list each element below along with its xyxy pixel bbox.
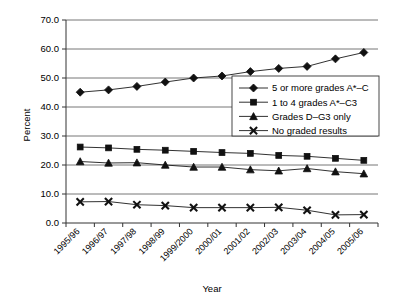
y-axis-title: Percent bbox=[21, 108, 32, 141]
legend-item-label: No graded results bbox=[272, 125, 347, 136]
y-tick-label: 50.0 bbox=[41, 72, 60, 83]
y-tick-label: 40.0 bbox=[41, 101, 60, 112]
marker-square bbox=[333, 155, 339, 161]
y-tick-label: 60.0 bbox=[41, 43, 60, 54]
marker-square bbox=[219, 150, 225, 156]
marker-square bbox=[134, 146, 140, 152]
y-tick-label: 70.0 bbox=[41, 14, 60, 25]
legend-item-label: Grades D–G3 only bbox=[272, 111, 351, 122]
legend-item-label: 1 to 4 grades A*–C3 bbox=[272, 97, 357, 108]
y-tick-label: 30.0 bbox=[41, 130, 60, 141]
marker-square bbox=[191, 148, 197, 154]
x-axis-title: Year bbox=[202, 283, 221, 294]
legend-item-label: 5 or more grades A*–C bbox=[272, 82, 369, 93]
marker-square bbox=[276, 153, 282, 159]
marker-square bbox=[162, 147, 168, 153]
y-tick-label: 0.0 bbox=[46, 217, 59, 228]
chart-container: 0.010.020.030.040.050.060.070.0 1995/961… bbox=[0, 0, 399, 305]
y-tick-label: 10.0 bbox=[41, 188, 60, 199]
line-chart: 0.010.020.030.040.050.060.070.0 1995/961… bbox=[0, 0, 399, 305]
marker-square bbox=[361, 157, 367, 163]
legend: 5 or more grades A*–C1 to 4 grades A*–C3… bbox=[232, 76, 379, 136]
chart-background bbox=[0, 0, 399, 305]
y-tick-label: 20.0 bbox=[41, 159, 60, 170]
marker-square bbox=[251, 99, 257, 105]
marker-square bbox=[77, 144, 83, 150]
marker-square bbox=[106, 145, 112, 151]
marker-square bbox=[247, 151, 253, 157]
marker-square bbox=[304, 153, 310, 159]
